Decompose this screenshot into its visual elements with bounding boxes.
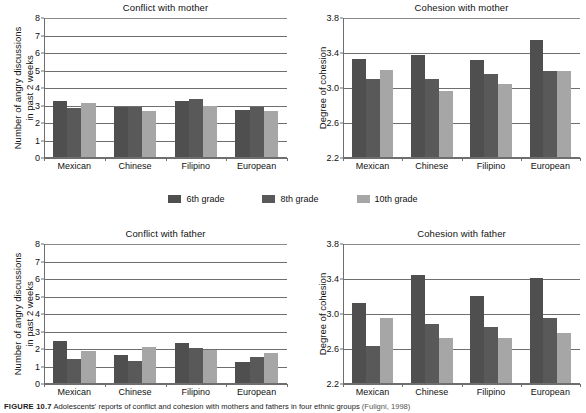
gridline bbox=[343, 18, 580, 19]
x-axis-tick-mark bbox=[521, 158, 522, 161]
bar-chinese-10th-grade bbox=[142, 347, 156, 384]
x-axis-tick-mark bbox=[580, 158, 581, 161]
bar-mexican-6th-grade bbox=[53, 341, 67, 384]
bar-european-10th-grade bbox=[557, 71, 571, 158]
x-axis-tick-mark bbox=[343, 384, 344, 387]
bar-mexican-8th-grade bbox=[366, 79, 380, 158]
x-axis-tick-label: Filipino bbox=[182, 161, 211, 171]
x-axis-tick-mark bbox=[287, 384, 288, 387]
x-axis-tick-label: Mexican bbox=[58, 387, 92, 397]
legend-swatch-icon bbox=[357, 195, 370, 203]
x-axis-tick-mark bbox=[402, 158, 403, 161]
gridline bbox=[343, 53, 580, 54]
x-axis-tick-mark bbox=[226, 384, 227, 387]
bar-mexican-10th-grade bbox=[81, 351, 95, 384]
caption-body: Adolescents' reports of conflict and coh… bbox=[53, 402, 359, 411]
chart-panel-cohesion-father: Cohesion with father2.22.63.03.43.8Mexic… bbox=[293, 228, 586, 404]
chart-title: Conflict with father bbox=[44, 228, 287, 239]
bar-filipino-8th-grade bbox=[484, 327, 498, 384]
plot-area: 2.22.63.03.43.8MexicanChineseFilipinoEur… bbox=[343, 244, 580, 384]
bar-european-6th-grade bbox=[530, 278, 544, 384]
bar-filipino-6th-grade bbox=[470, 296, 484, 384]
x-axis-tick-mark bbox=[226, 158, 227, 161]
bar-mexican-10th-grade bbox=[81, 103, 95, 158]
plot-area: 012345678MexicanChineseFilipinoEuropean bbox=[44, 18, 287, 158]
x-axis-tick-label: Filipino bbox=[477, 387, 506, 397]
figure-number: FIGURE 10.7 bbox=[4, 402, 52, 411]
x-axis-tick-label: Mexican bbox=[356, 387, 390, 397]
x-axis-labels: MexicanChineseFilipinoEuropean bbox=[343, 384, 580, 400]
bar-mexican-10th-grade bbox=[380, 70, 394, 158]
x-axis-tick-label: Filipino bbox=[182, 387, 211, 397]
x-axis-tick-label: European bbox=[531, 387, 570, 397]
chart-panel-cohesion-mother: Cohesion with mother2.22.63.03.43.8Mexic… bbox=[293, 2, 586, 178]
legend-label: 6th grade bbox=[186, 194, 224, 204]
bar-filipino-10th-grade bbox=[498, 338, 512, 384]
x-axis-labels: MexicanChineseFilipinoEuropean bbox=[44, 158, 287, 174]
bar-european-6th-grade bbox=[530, 40, 544, 158]
legend-item-6th-grade: 6th grade bbox=[168, 194, 224, 204]
y-axis-line bbox=[44, 244, 45, 384]
legend-swatch-icon bbox=[262, 195, 275, 203]
gridline bbox=[44, 88, 287, 89]
bar-filipino-6th-grade bbox=[175, 101, 189, 158]
x-axis-tick-mark bbox=[166, 384, 167, 387]
bar-mexican-8th-grade bbox=[67, 359, 81, 384]
y-axis-title: Degree of cohesion bbox=[317, 244, 328, 384]
bar-filipino-8th-grade bbox=[484, 74, 498, 158]
bar-filipino-10th-grade bbox=[203, 106, 217, 159]
y-axis-title-line2: in past 2 weeks bbox=[24, 244, 35, 384]
gridline bbox=[343, 244, 580, 245]
chart-title: Conflict with mother bbox=[44, 2, 287, 13]
bar-european-10th-grade bbox=[264, 353, 278, 384]
x-axis-tick-mark bbox=[105, 158, 106, 161]
gridline bbox=[44, 349, 287, 350]
bar-filipino-10th-grade bbox=[498, 84, 512, 158]
bar-european-8th-grade bbox=[543, 318, 557, 385]
x-axis-tick-label: European bbox=[237, 387, 276, 397]
x-axis-tick-mark bbox=[462, 384, 463, 387]
gridline bbox=[44, 18, 287, 19]
y-axis-line bbox=[343, 244, 344, 384]
x-axis-tick-mark bbox=[44, 384, 45, 387]
y-axis-title-line1: Number of angry discussions bbox=[12, 18, 23, 158]
x-axis-tick-label: Filipino bbox=[477, 161, 506, 171]
x-axis-tick-label: European bbox=[531, 161, 570, 171]
legend-swatch-icon bbox=[168, 195, 181, 203]
bar-mexican-8th-grade bbox=[366, 346, 380, 385]
bar-filipino-6th-grade bbox=[175, 343, 189, 384]
bar-chinese-10th-grade bbox=[439, 91, 453, 158]
x-axis-tick-mark bbox=[44, 158, 45, 161]
bar-chinese-8th-grade bbox=[425, 79, 439, 158]
bar-mexican-6th-grade bbox=[352, 59, 366, 158]
y-axis-line bbox=[44, 18, 45, 158]
bar-mexican-6th-grade bbox=[53, 101, 67, 158]
bar-mexican-6th-grade bbox=[352, 303, 366, 384]
bar-chinese-6th-grade bbox=[411, 275, 425, 384]
legend-item-8th-grade: 8th grade bbox=[262, 194, 318, 204]
legend-label: 10th grade bbox=[375, 194, 418, 204]
x-axis-tick-mark bbox=[521, 384, 522, 387]
bar-chinese-6th-grade bbox=[114, 107, 128, 158]
gridline bbox=[44, 36, 287, 37]
bar-european-8th-grade bbox=[250, 107, 264, 158]
bar-european-6th-grade bbox=[235, 110, 249, 158]
legend-label: 8th grade bbox=[280, 194, 318, 204]
x-axis-labels: MexicanChineseFilipinoEuropean bbox=[44, 384, 287, 400]
x-axis-tick-label: Chinese bbox=[119, 161, 152, 171]
gridline bbox=[44, 314, 287, 315]
bar-chinese-8th-grade bbox=[425, 324, 439, 384]
gridline bbox=[44, 332, 287, 333]
chart-title: Cohesion with father bbox=[343, 228, 580, 239]
x-axis-tick-label: Mexican bbox=[58, 161, 92, 171]
chart-panel-conflict-mother: Conflict with mother012345678MexicanChin… bbox=[0, 2, 293, 178]
plot-area: 2.22.63.03.43.8MexicanChineseFilipinoEur… bbox=[343, 18, 580, 158]
bar-chinese-6th-grade bbox=[114, 355, 128, 384]
bar-european-10th-grade bbox=[264, 111, 278, 158]
y-axis-title: Degree of cohesion bbox=[317, 18, 328, 158]
x-axis-tick-label: Chinese bbox=[119, 387, 152, 397]
x-axis-tick-mark bbox=[166, 158, 167, 161]
bar-filipino-8th-grade bbox=[189, 99, 203, 158]
bar-chinese-6th-grade bbox=[411, 55, 425, 158]
x-axis-tick-label: Chinese bbox=[415, 161, 448, 171]
